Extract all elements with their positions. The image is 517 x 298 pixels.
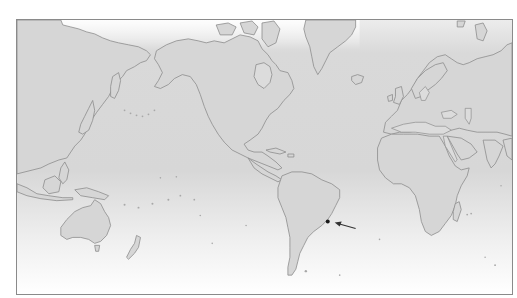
world-map-svg [17, 20, 512, 294]
location-marker [326, 220, 330, 224]
hispaniola [288, 154, 294, 157]
falkland-islands [305, 270, 307, 272]
tasmania [95, 245, 100, 251]
world-map [16, 19, 513, 295]
